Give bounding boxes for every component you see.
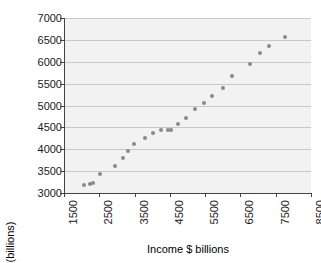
x-axis-tick-mark bbox=[276, 193, 277, 197]
data-point bbox=[113, 164, 117, 168]
gridline-horizontal bbox=[64, 127, 311, 128]
data-point bbox=[91, 181, 95, 185]
data-point bbox=[230, 74, 234, 78]
x-axis-tick-label: 8500 bbox=[315, 200, 321, 224]
x-axis-tick-mark bbox=[205, 193, 206, 197]
data-point bbox=[132, 142, 136, 146]
x-axis-tick-mark bbox=[311, 193, 312, 197]
data-point bbox=[151, 131, 155, 135]
data-point bbox=[184, 116, 188, 120]
data-point bbox=[258, 51, 262, 55]
y-axis-title: Consumption $ (billions) bbox=[4, 193, 16, 263]
data-point bbox=[159, 128, 163, 132]
data-point bbox=[193, 107, 197, 111]
data-point bbox=[143, 136, 147, 140]
x-axis-tick-mark bbox=[240, 193, 241, 197]
x-axis-tick-label: 3500 bbox=[139, 200, 150, 224]
y-axis-tick-label: 7000 bbox=[4, 13, 62, 24]
x-axis-tick-label: 4500 bbox=[174, 200, 185, 224]
gridline-horizontal bbox=[64, 40, 311, 41]
y-axis-line bbox=[64, 18, 65, 194]
data-point bbox=[176, 122, 180, 126]
data-point bbox=[283, 35, 287, 39]
x-axis-tick-label: 7500 bbox=[280, 200, 291, 224]
y-axis-tick-label: 6000 bbox=[4, 56, 62, 67]
data-point bbox=[82, 183, 86, 187]
y-axis-tick-label: 5500 bbox=[4, 78, 62, 89]
y-axis-tick-label: 3500 bbox=[4, 166, 62, 177]
gridline-horizontal bbox=[64, 149, 311, 150]
data-point bbox=[248, 62, 252, 66]
data-point bbox=[98, 172, 102, 176]
x-axis-tick-label: 5500 bbox=[209, 200, 220, 224]
x-axis-tick-label: 6500 bbox=[244, 200, 255, 224]
x-axis-tick-mark bbox=[99, 193, 100, 197]
plot-area bbox=[64, 18, 311, 193]
data-point bbox=[126, 149, 130, 153]
data-point bbox=[169, 128, 173, 132]
x-axis-tick-mark bbox=[64, 193, 65, 197]
gridline-horizontal bbox=[64, 106, 311, 107]
gridline-horizontal bbox=[64, 62, 311, 63]
y-axis-tick-label: 4000 bbox=[4, 144, 62, 155]
data-point bbox=[121, 156, 125, 160]
data-point bbox=[210, 94, 214, 98]
x-axis-tick-mark bbox=[135, 193, 136, 197]
data-point bbox=[221, 86, 225, 90]
data-point bbox=[267, 44, 271, 48]
x-axis-tick-label: 1500 bbox=[68, 200, 79, 224]
y-axis-tick-label: 5000 bbox=[4, 100, 62, 111]
y-axis-tick-label: 6500 bbox=[4, 34, 62, 45]
x-axis-tick-mark bbox=[170, 193, 171, 197]
x-axis-title: Income $ billions bbox=[64, 243, 312, 255]
gridline-horizontal bbox=[64, 18, 311, 19]
x-axis-tick-label: 2500 bbox=[103, 200, 114, 224]
y-axis-tick-label: 4500 bbox=[4, 122, 62, 133]
gridline-horizontal bbox=[64, 84, 311, 85]
scatter-chart-figure: 300035004000450050005500600065007000 Inc… bbox=[0, 0, 321, 263]
